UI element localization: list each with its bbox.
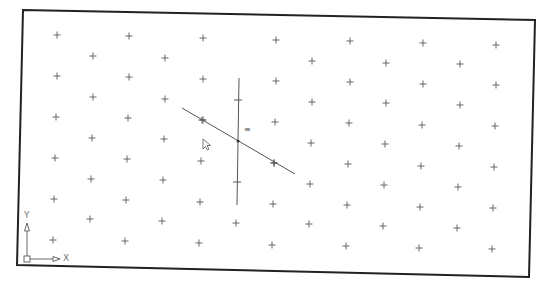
grid-point-marker <box>160 177 167 184</box>
grid-point-marker <box>420 40 427 47</box>
grid-point-marker <box>308 140 315 147</box>
ucs-icon <box>24 223 60 262</box>
grid-point-marker <box>50 237 57 244</box>
grid-point-marker <box>200 35 207 42</box>
parallel-marker: ≡ <box>244 125 251 134</box>
grid-point-marker <box>198 158 205 165</box>
grid-point-marker <box>272 119 279 126</box>
grid-point-marker <box>455 184 462 191</box>
drawing-canvas[interactable] <box>0 0 547 290</box>
grid-point-marker <box>381 182 388 189</box>
grid-point-marker <box>345 161 352 168</box>
grid-point-marker <box>309 58 316 65</box>
grid-point-marker <box>197 199 204 206</box>
grid-point-marker <box>457 102 464 109</box>
grid-point-marker <box>233 220 240 227</box>
grid-point-marker <box>122 238 129 245</box>
grid-point-marker <box>456 143 463 150</box>
grid-point-marker <box>88 176 95 183</box>
grid-point-marker <box>273 37 280 44</box>
grid-point-marker <box>125 115 132 122</box>
tick-mark <box>200 117 207 124</box>
grid-point-marker <box>126 33 133 40</box>
ucs-x-label: X <box>63 253 69 263</box>
grid-point-marker <box>491 164 498 171</box>
grid-point-marker <box>54 73 61 80</box>
grid-point-marker <box>383 100 390 107</box>
grid-point-marker <box>490 205 497 212</box>
grid-point-marker <box>492 123 499 130</box>
grid-point-marker <box>382 141 389 148</box>
ucs-y-arrow-icon <box>25 223 30 231</box>
grid-point-marker <box>162 96 169 103</box>
grid-point-marker <box>200 76 207 83</box>
ucs-x-arrow-icon <box>53 257 60 262</box>
grid-point-marker <box>346 120 353 127</box>
grid-point-marker <box>90 94 97 101</box>
grid-point-marker <box>380 223 387 230</box>
grid-point-marker <box>161 136 168 143</box>
grid-point-marker <box>159 218 166 225</box>
grid-point-marker <box>418 163 425 170</box>
grid-point-marker <box>273 78 280 85</box>
grid-point-marker <box>90 53 97 60</box>
grid-point-marker <box>53 114 60 121</box>
grid-point-marker <box>420 81 427 88</box>
ucs-y-label: Y <box>24 210 30 220</box>
grid-point-marker <box>493 42 500 49</box>
grid-point-marker <box>307 181 314 188</box>
grid-point-marker <box>306 221 313 228</box>
grid-point-marker <box>347 38 354 45</box>
grid-point-marker <box>196 240 203 247</box>
grid-point-marker <box>416 245 423 252</box>
grid-point-marker <box>347 79 354 86</box>
grid-point-marker <box>383 60 390 67</box>
construction-lines[interactable] <box>182 78 295 205</box>
grid-point-marker <box>123 197 130 204</box>
grid-point-marker <box>270 201 277 208</box>
grid-point-marker <box>87 216 94 223</box>
grid-point-marker <box>343 243 350 250</box>
viewport-frame <box>17 10 535 277</box>
grid-point-marker <box>493 82 500 89</box>
grid-point-marker <box>417 204 424 211</box>
arrow-cursor-icon <box>203 139 211 150</box>
grid-point-marker <box>54 32 61 39</box>
grid-point-marker <box>344 202 351 209</box>
grid-point-marker <box>89 135 96 142</box>
grid-point-marker <box>162 55 169 62</box>
grid-point-marker <box>489 246 496 253</box>
grid-point-marker <box>51 196 58 203</box>
grid-point-marker <box>457 61 464 68</box>
grid-point-marker <box>309 99 316 106</box>
grid-point-marker <box>124 156 131 163</box>
grid-point-marker <box>454 225 461 232</box>
ucs-origin-box <box>24 256 30 262</box>
grid-point-marker <box>419 122 426 129</box>
grid-point-marker <box>126 74 133 81</box>
intersection-point <box>237 140 240 143</box>
grid-markers <box>50 32 500 253</box>
grid-point-marker <box>269 242 276 249</box>
grid-point-marker <box>52 155 59 162</box>
